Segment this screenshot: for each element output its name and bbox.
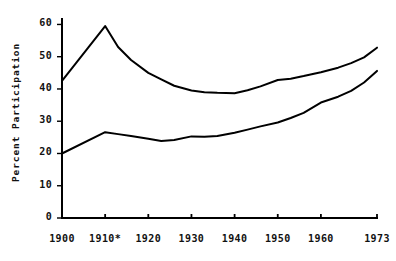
- chart-figure: Percent Participation 0102030405060 1900…: [0, 0, 396, 261]
- series-line-upper-curve: [62, 26, 377, 93]
- series-line-lower-curve: [62, 71, 377, 154]
- plot-canvas: [0, 0, 396, 261]
- data-series-group: [62, 26, 377, 153]
- axes-group: [61, 18, 378, 219]
